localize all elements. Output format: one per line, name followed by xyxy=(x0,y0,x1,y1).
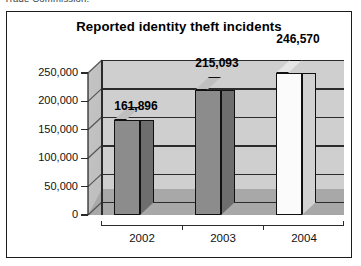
bar-2002-side xyxy=(140,120,154,215)
ytick-label-0: 0 xyxy=(72,208,78,220)
ytick-label-100000: 100,000 xyxy=(38,151,78,163)
bar-2002[interactable] xyxy=(114,120,140,215)
category-axis-start-tick xyxy=(101,221,102,226)
category-axis-end-tick xyxy=(343,221,344,226)
ytick-label-250000: 250,000 xyxy=(38,66,78,78)
data-label-2002: 161,896 xyxy=(102,99,170,113)
data-label-2003: 215,093 xyxy=(183,56,251,70)
bar-2003-front xyxy=(195,90,221,215)
category-axis-line xyxy=(101,225,344,226)
ytick-mark-250000 xyxy=(81,72,88,73)
chart-screenshot: Trade Commission. Reported identity thef… xyxy=(0,0,361,266)
bar-2004[interactable] xyxy=(276,73,302,215)
bar-2002-front xyxy=(114,120,140,215)
value-axis-back xyxy=(101,60,102,215)
bar-2004-front xyxy=(276,73,302,215)
bar-2004-side xyxy=(302,73,316,215)
category-tick-1 xyxy=(182,225,183,230)
ytick-mark-150000 xyxy=(81,129,88,130)
category-label-2003: 2003 xyxy=(189,232,257,244)
bar-2003-side xyxy=(221,90,235,215)
ytick-label-200000: 200,000 xyxy=(38,94,78,106)
ytick-mark-0 xyxy=(81,214,88,215)
category-tick-2 xyxy=(263,225,264,230)
ytick-label-50000: 50,000 xyxy=(44,180,78,192)
plot-left-wall xyxy=(88,60,102,215)
ytick-mark-200000 xyxy=(81,101,88,102)
ytick-mark-50000 xyxy=(81,186,88,187)
data-label-2004: 246,570 xyxy=(264,32,332,46)
bar-2003[interactable] xyxy=(195,90,221,215)
plot-area: 250,000 200,000 150,000 100,000 50,000 0… xyxy=(0,0,361,266)
ytick-mark-100000 xyxy=(81,158,88,159)
category-label-2004: 2004 xyxy=(270,232,338,244)
ytick-label-150000: 150,000 xyxy=(38,123,78,135)
category-label-2002: 2002 xyxy=(108,232,176,244)
